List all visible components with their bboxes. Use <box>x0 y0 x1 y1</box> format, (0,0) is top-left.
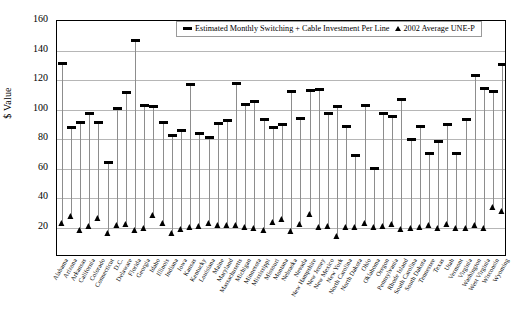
legend-dash-icon <box>183 27 192 30</box>
data-point-unep <box>168 230 174 236</box>
data-stem <box>108 163 109 233</box>
x-axis-tick-labels: AlabamaArizonaArkansasCaliforniaColorado… <box>56 257 506 334</box>
data-point-unep <box>471 222 477 228</box>
data-point-unep <box>425 222 431 228</box>
data-stem <box>438 141 439 227</box>
data-point-unep <box>398 226 404 232</box>
y-tick-label: 160 <box>2 13 48 24</box>
data-point-investment <box>351 154 360 157</box>
data-point-investment <box>159 121 168 124</box>
data-point-investment <box>104 161 113 164</box>
data-point-unep <box>95 215 101 221</box>
data-stem <box>420 126 421 226</box>
data-point-investment <box>315 88 324 91</box>
data-point-unep <box>278 216 284 222</box>
data-point-unep <box>352 224 358 230</box>
data-point-investment <box>76 121 85 124</box>
data-point-unep <box>232 222 238 228</box>
data-point-unep <box>315 224 321 230</box>
data-point-investment <box>462 118 471 121</box>
data-stem <box>227 121 228 226</box>
data-point-investment <box>205 136 214 139</box>
data-point-investment <box>416 125 425 128</box>
data-point-investment <box>168 134 177 137</box>
data-stem <box>181 130 182 229</box>
data-point-investment <box>223 119 232 122</box>
data-point-unep <box>480 225 486 231</box>
data-point-unep <box>288 228 294 234</box>
data-point-unep <box>131 227 137 233</box>
data-point-investment <box>443 123 452 126</box>
data-stem <box>411 140 412 229</box>
data-point-investment <box>232 82 241 85</box>
data-point-investment <box>186 83 195 86</box>
data-stem <box>374 169 375 227</box>
data-point-unep <box>407 225 413 231</box>
data-point-investment <box>58 62 67 65</box>
data-point-investment <box>361 104 370 107</box>
data-point-unep <box>104 230 110 236</box>
data-point-investment <box>278 123 287 126</box>
plot-area <box>56 20 506 256</box>
y-tick-label: 100 <box>2 102 48 113</box>
data-stem <box>135 41 136 231</box>
data-point-investment <box>85 112 94 115</box>
data-stem <box>310 90 311 214</box>
data-stem <box>300 118 301 223</box>
legend-label: 2002 Average UNE-P <box>404 24 475 33</box>
data-point-investment <box>425 152 434 155</box>
data-point-unep <box>370 224 376 230</box>
data-point-investment <box>241 103 250 106</box>
data-point-investment <box>113 107 122 110</box>
data-stem <box>401 100 402 229</box>
data-point-unep <box>416 224 422 230</box>
data-point-investment <box>195 132 204 135</box>
y-tick-label: 40 <box>2 190 48 201</box>
data-point-unep <box>242 224 248 230</box>
data-stem <box>126 93 127 224</box>
y-axis-tick-labels: 20406080100120140160 <box>0 20 52 256</box>
data-stem <box>273 127 274 222</box>
data-stem <box>264 119 265 230</box>
data-stem <box>89 113 90 226</box>
data-point-investment <box>434 140 443 143</box>
data-stem <box>144 106 145 228</box>
data-stem <box>383 114 384 226</box>
data-point-unep <box>122 221 128 227</box>
data-stem <box>172 135 173 233</box>
data-point-unep <box>58 220 64 226</box>
data-point-unep <box>141 225 147 231</box>
data-stem <box>319 90 320 227</box>
data-point-unep <box>67 213 73 219</box>
data-point-unep <box>223 222 229 228</box>
legend-triangle-icon <box>395 26 401 31</box>
data-point-unep <box>196 223 202 229</box>
data-point-unep <box>251 225 257 231</box>
data-point-investment <box>214 122 223 125</box>
data-point-unep <box>462 225 468 231</box>
data-stem <box>190 84 191 226</box>
data-stem <box>98 122 99 218</box>
data-point-unep <box>297 221 303 227</box>
data-point-unep <box>333 233 339 239</box>
data-point-investment <box>498 63 506 66</box>
data-point-investment <box>379 112 388 115</box>
data-point-unep <box>343 224 349 230</box>
data-point-unep <box>324 223 330 229</box>
chart-container: $ Value 20406080100120140160 Estimated M… <box>0 0 516 334</box>
data-point-investment <box>324 112 333 115</box>
data-point-investment <box>149 105 158 108</box>
y-tick-label: 20 <box>2 220 48 231</box>
data-point-unep <box>150 212 156 218</box>
data-point-investment <box>296 117 305 120</box>
data-stem <box>153 107 154 215</box>
data-stem <box>328 113 329 226</box>
data-point-investment <box>480 87 489 90</box>
data-point-unep <box>177 226 183 232</box>
data-stem <box>236 84 237 225</box>
data-stem <box>355 155 356 227</box>
data-point-unep <box>379 223 385 229</box>
gridline <box>57 51 505 52</box>
data-point-investment <box>131 39 140 42</box>
data-stem <box>291 91 292 231</box>
